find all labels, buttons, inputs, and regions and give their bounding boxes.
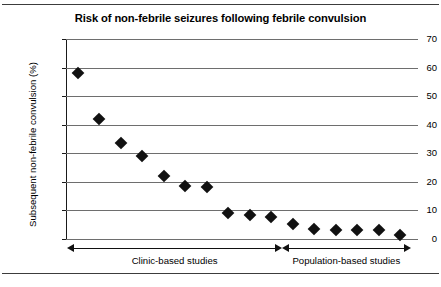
group-label-0: Clinic-based studies xyxy=(75,255,275,266)
data-point xyxy=(286,218,299,231)
data-point xyxy=(329,223,342,236)
data-point xyxy=(115,137,128,150)
group-range-arrow-1 xyxy=(282,244,411,253)
data-point xyxy=(351,223,364,236)
gridline-60 xyxy=(66,68,418,69)
y-tick-mark-20 xyxy=(62,182,66,183)
data-point xyxy=(222,207,235,220)
y-axis-label: Subsequent non-febrile convulsion (%) xyxy=(27,40,38,250)
data-point xyxy=(308,223,321,236)
y-tick-label-30: 30 xyxy=(383,148,441,158)
y-tick-label-40: 40 xyxy=(383,120,441,130)
data-point xyxy=(157,170,170,183)
y-tick-label-60: 60 xyxy=(383,63,441,73)
group-range-arrow-0 xyxy=(67,244,282,253)
data-point xyxy=(93,113,106,126)
y-tick-label-70: 70 xyxy=(383,34,441,44)
data-point xyxy=(136,150,149,163)
y-tick-label-50: 50 xyxy=(383,91,441,101)
arrow-shaft xyxy=(287,248,406,249)
gridline-70 xyxy=(66,39,418,40)
gridline-0 xyxy=(66,239,418,240)
gridline-10 xyxy=(66,210,418,211)
y-tick-mark-40 xyxy=(62,125,66,126)
figure-container: Risk of non-febrile seizures following f… xyxy=(0,0,441,287)
y-tick-mark-30 xyxy=(62,153,66,154)
data-point xyxy=(72,67,85,80)
gridline-50 xyxy=(66,96,418,97)
arrow-shaft xyxy=(72,248,277,249)
gridline-40 xyxy=(66,125,418,126)
gridline-20 xyxy=(66,182,418,183)
arrow-head-right-icon xyxy=(404,244,411,252)
y-tick-label-0: 0 xyxy=(383,234,441,244)
y-tick-mark-50 xyxy=(62,96,66,97)
y-tick-label-20: 20 xyxy=(383,177,441,187)
arrow-head-left-icon xyxy=(282,244,289,252)
y-tick-mark-70 xyxy=(62,39,66,40)
group-label-1: Population-based studies xyxy=(246,255,441,266)
data-point xyxy=(265,210,278,223)
arrow-head-left-icon xyxy=(67,244,74,252)
plot-area: 010203040506070 Subsequent non-febrile c… xyxy=(0,0,441,287)
y-tick-mark-0 xyxy=(62,239,66,240)
y-tick-mark-60 xyxy=(62,68,66,69)
y-axis-spine xyxy=(66,39,67,239)
y-tick-label-10: 10 xyxy=(383,205,441,215)
y-tick-mark-10 xyxy=(62,210,66,211)
gridline-30 xyxy=(66,153,418,154)
